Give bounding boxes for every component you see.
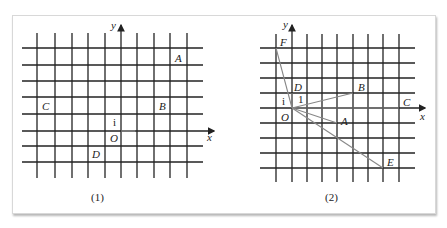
figure-1-grid	[22, 25, 214, 178]
x-axis-label: x	[206, 131, 212, 143]
figure-1: y x i O A B C D (1)	[22, 19, 214, 204]
vector-oa	[292, 108, 337, 123]
point-a-label: A	[340, 115, 348, 127]
point-c-label: C	[42, 100, 50, 112]
y-axis-label: y	[282, 18, 288, 30]
x-axis-label: x	[419, 110, 425, 122]
origin-label: O	[110, 132, 118, 144]
unit-label-i: i	[282, 95, 285, 107]
point-d-label: D	[91, 148, 100, 160]
point-d-label: D	[293, 81, 302, 93]
diagram-canvas: y x i O A B C D (1)	[0, 0, 447, 228]
figure-1-caption: (1)	[91, 191, 104, 204]
point-e-label: E	[386, 156, 394, 168]
point-b-label: B	[159, 100, 166, 112]
figure-2-caption: (2)	[325, 191, 338, 204]
unit-label-1: 1	[298, 93, 304, 105]
y-axis-label: y	[110, 19, 116, 31]
point-c-label: C	[403, 96, 411, 108]
figure-2: y x i 1 O A B C D E F (2)	[260, 18, 425, 204]
point-a-label: A	[174, 52, 182, 64]
point-f-label: F	[279, 36, 287, 48]
point-b-label: B	[358, 81, 365, 93]
origin-label: O	[281, 111, 289, 123]
unit-label-i: i	[113, 116, 116, 128]
